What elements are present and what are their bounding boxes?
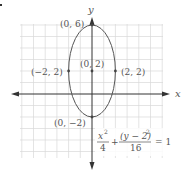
figure-marker xyxy=(0,4,2,6)
label-top-vertex: (0, 6) xyxy=(60,19,84,29)
point-bottom-vertex xyxy=(91,116,94,119)
label-center: (0, 2) xyxy=(80,59,104,69)
label-right: (2, 2) xyxy=(121,67,145,77)
eq-plus: + xyxy=(111,137,119,147)
eq-equals-one: = 1 xyxy=(155,137,171,147)
x-axis-right-arrow-icon xyxy=(162,92,170,97)
label-bottom-vertex: (0, −2) xyxy=(54,118,86,128)
x-axis xyxy=(11,92,170,97)
eq-term1-exponent: 2 xyxy=(104,128,108,135)
point-center xyxy=(91,70,94,73)
eq-term2-denominator: 16 xyxy=(130,143,142,153)
x-axis-left-arrow-icon xyxy=(11,92,19,97)
point-top-vertex xyxy=(91,24,94,27)
x-axis-label: x xyxy=(175,88,181,99)
label-left: (−2, 2) xyxy=(31,67,63,77)
point-right xyxy=(114,70,117,73)
ellipse-graph: y x (0, 6) (0, 2) (−2, 2) (2, 2) (0, −2)… xyxy=(0,0,186,172)
point-left xyxy=(67,70,70,73)
eq-term2-exponent: 2 xyxy=(146,128,150,135)
y-axis-label: y xyxy=(87,4,94,15)
y-axis-down-arrow-icon xyxy=(90,162,95,170)
eq-term1-numerator: x xyxy=(98,131,103,141)
ellipse-equation: x 2 4 + (y − 2) 2 16 = 1 xyxy=(95,128,171,156)
eq-term1-denominator: 4 xyxy=(100,143,106,153)
